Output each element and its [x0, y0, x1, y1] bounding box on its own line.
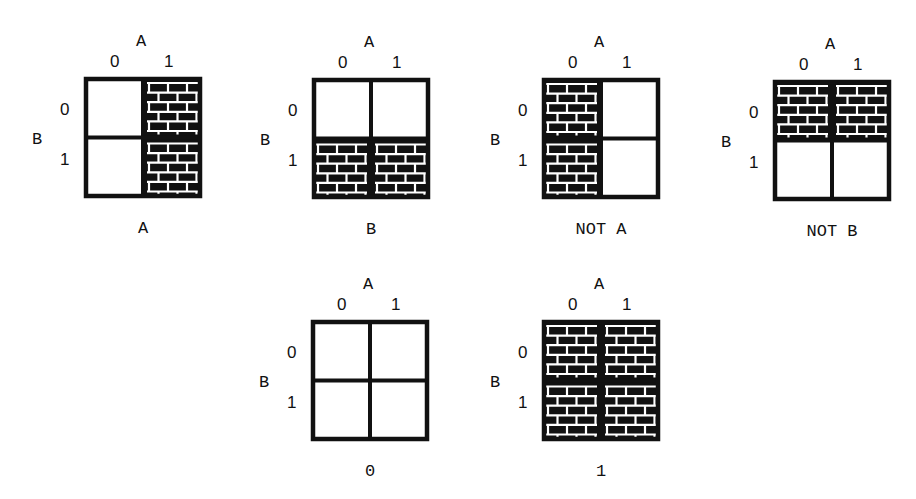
row-value-0-label: 0	[749, 104, 758, 121]
column-value-0-label: 0	[568, 54, 577, 71]
row-value-1-label: 1	[60, 151, 69, 168]
column-value-0-label: 0	[799, 56, 808, 73]
truth-grid	[542, 78, 660, 199]
column-variable-label: A	[364, 34, 374, 51]
column-variable-label: A	[363, 276, 373, 293]
column-variable-label: A	[136, 33, 146, 50]
column-value-0-label: 0	[338, 54, 347, 71]
column-variable-label: A	[594, 276, 604, 293]
function-caption: 0	[365, 463, 375, 480]
column-value-1-label: 1	[391, 296, 400, 313]
column-value-0-label: 0	[568, 296, 577, 313]
column-value-1-label: 1	[622, 296, 631, 313]
truth-grid	[84, 77, 202, 198]
row-variable-label: B	[490, 374, 500, 391]
truth-grid	[311, 320, 429, 441]
row-variable-label: B	[721, 134, 731, 151]
function-caption: B	[366, 221, 376, 238]
function-caption: NOT A	[575, 221, 626, 238]
column-variable-label: A	[825, 36, 835, 53]
column-value-1-label: 1	[392, 54, 401, 71]
row-value-0-label: 0	[60, 101, 69, 118]
function-caption: A	[138, 220, 148, 237]
column-value-1-label: 1	[622, 54, 631, 71]
row-value-0-label: 0	[287, 344, 296, 361]
column-value-0-label: 0	[110, 53, 119, 70]
row-value-1-label: 1	[518, 394, 527, 411]
row-value-0-label: 0	[518, 344, 527, 361]
row-value-0-label: 0	[518, 102, 527, 119]
truth-grid	[312, 78, 430, 199]
row-variable-label: B	[490, 132, 500, 149]
row-value-1-label: 1	[288, 152, 297, 169]
row-value-1-label: 1	[518, 152, 527, 169]
row-variable-label: B	[259, 374, 269, 391]
truth-grid	[542, 320, 660, 441]
function-caption: 1	[596, 463, 606, 480]
row-variable-label: B	[260, 132, 270, 149]
column-value-1-label: 1	[853, 56, 862, 73]
truth-grid	[773, 80, 891, 201]
row-value-1-label: 1	[749, 154, 758, 171]
column-variable-label: A	[594, 34, 604, 51]
row-value-0-label: 0	[288, 102, 297, 119]
column-value-0-label: 0	[337, 296, 346, 313]
row-value-1-label: 1	[287, 394, 296, 411]
function-caption: NOT B	[806, 223, 857, 240]
column-value-1-label: 1	[164, 53, 173, 70]
row-variable-label: B	[32, 131, 42, 148]
